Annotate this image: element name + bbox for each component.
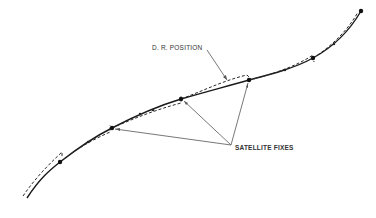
satellite-fixes-leaders <box>115 83 248 145</box>
arrowhead-icons <box>115 83 248 131</box>
fix-marker <box>58 160 62 164</box>
satellite-fix-markers <box>58 9 363 164</box>
satellite-fixes-label: SATELLITE FIXES <box>235 144 294 151</box>
navigation-diagram: D. R. POSITION SATELLITE FIXES <box>0 0 376 218</box>
fix-marker <box>311 56 315 60</box>
dr-position-label: D. R. POSITION <box>152 44 203 51</box>
fix-marker <box>247 78 251 82</box>
fix-marker <box>110 126 114 130</box>
fix-marker <box>179 97 183 101</box>
dr-track-segments <box>23 12 358 196</box>
fix-marker <box>359 9 363 13</box>
dr-position-leader <box>207 50 227 80</box>
track-tick-marks <box>87 43 335 143</box>
true-track-line <box>27 11 361 198</box>
arrowhead-icon <box>223 75 227 80</box>
